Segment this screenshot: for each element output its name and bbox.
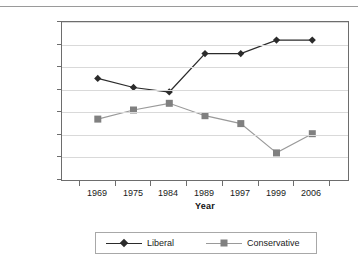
chart-figure: Percentage 010203040506070 1969197519841… bbox=[0, 0, 358, 269]
legend-label-conservative: Conservative bbox=[247, 238, 300, 248]
x-tick-label: 1999 bbox=[256, 188, 296, 198]
x-tick-mark bbox=[115, 181, 116, 186]
data-point-liberal-1997[interactable] bbox=[237, 50, 244, 57]
gridline bbox=[62, 135, 348, 136]
x-tick-label: 1975 bbox=[113, 188, 153, 198]
x-tick-mark bbox=[222, 181, 223, 186]
data-point-conservative-1989[interactable] bbox=[202, 112, 209, 119]
diamond-marker-icon bbox=[120, 239, 128, 247]
x-tick-label: 1984 bbox=[148, 188, 188, 198]
gridline bbox=[62, 157, 348, 158]
x-tick-mark bbox=[150, 181, 151, 186]
legend-line-liberal bbox=[106, 243, 142, 244]
gridline bbox=[62, 45, 348, 46]
x-tick-label: 1997 bbox=[220, 188, 260, 198]
gridline bbox=[62, 22, 348, 23]
x-tick-label: 1969 bbox=[77, 188, 117, 198]
legend-item-liberal[interactable]: Liberal bbox=[106, 233, 174, 253]
legend-label-liberal: Liberal bbox=[147, 238, 174, 248]
x-tick-mark bbox=[79, 181, 80, 186]
series-line-conservative bbox=[98, 103, 312, 153]
gridline bbox=[62, 90, 348, 91]
x-tick-mark bbox=[293, 181, 294, 186]
x-tick-mark bbox=[329, 181, 330, 186]
data-point-conservative-1969[interactable] bbox=[94, 116, 101, 123]
x-axis-title: Year bbox=[61, 201, 349, 211]
x-tick-mark bbox=[186, 181, 187, 186]
gridline bbox=[62, 112, 348, 113]
plot-area bbox=[61, 21, 349, 181]
legend-item-conservative[interactable]: Conservative bbox=[206, 233, 300, 253]
chart-legend: Liberal Conservative bbox=[95, 232, 317, 254]
data-point-liberal-2006[interactable] bbox=[309, 36, 316, 43]
data-point-conservative-1999[interactable] bbox=[273, 149, 280, 156]
gridline bbox=[62, 67, 348, 68]
data-point-conservative-1997[interactable] bbox=[237, 120, 244, 127]
data-point-liberal-1999[interactable] bbox=[273, 36, 280, 43]
data-point-conservative-2006[interactable] bbox=[309, 130, 316, 137]
data-point-conservative-1984[interactable] bbox=[166, 100, 173, 107]
square-marker-icon bbox=[221, 240, 228, 247]
x-tick-mark bbox=[258, 181, 259, 186]
legend-line-conservative bbox=[206, 243, 242, 244]
data-point-liberal-1969[interactable] bbox=[94, 75, 101, 82]
x-tick-label: 2006 bbox=[291, 188, 331, 198]
header-divider bbox=[0, 6, 358, 7]
x-tick-label: 1989 bbox=[184, 188, 224, 198]
